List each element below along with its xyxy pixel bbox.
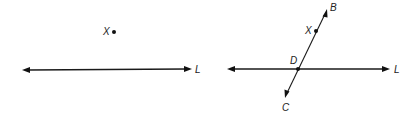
point-x (314, 29, 318, 33)
line-label-l: L (394, 64, 400, 75)
arrow-head-c (285, 90, 290, 99)
point-label-b: B (330, 2, 337, 13)
arrow-head-left (227, 66, 235, 72)
point-d (296, 67, 300, 71)
line-label-l: L (195, 64, 201, 75)
point-x (112, 30, 116, 34)
arrow-head-right (382, 66, 390, 72)
arrow-head-b (323, 9, 328, 18)
point-label-x: X (102, 26, 110, 37)
geometry-diagram: L X L B C X D (0, 0, 409, 120)
point-label-c: C (282, 102, 290, 113)
figure-left: L X (22, 26, 201, 75)
point-label-x: X (304, 25, 312, 36)
arrow-head-left (22, 67, 30, 73)
arrow-head-right (184, 66, 192, 72)
figure-right: L B C X D (227, 2, 400, 113)
point-label-d: D (290, 55, 297, 66)
line-l-left (28, 69, 186, 70)
